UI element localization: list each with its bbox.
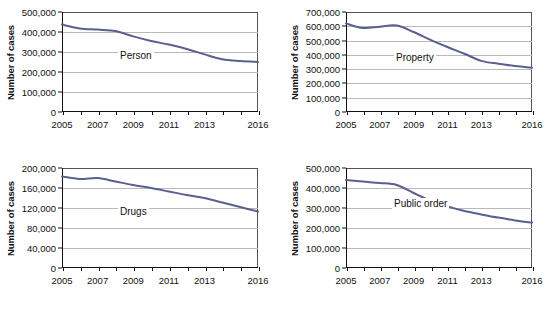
chart-panel-public-order: Number of cases0100,000200,000300,000400… <box>274 156 548 312</box>
series-label-property: Property <box>394 52 436 63</box>
chart-panel-property: Number of cases0100,000200,000300,000400… <box>274 0 548 156</box>
series-label-drugs: Drugs <box>118 206 149 217</box>
series-label-person: Person <box>118 50 154 61</box>
chart-panel-drugs: Number of cases040,00080,000120,000160,0… <box>0 156 274 312</box>
chart-grid: Number of cases0100,000200,000300,000400… <box>0 0 548 312</box>
data-series-line <box>274 156 548 312</box>
series-label-public-order: Public order <box>392 198 449 209</box>
chart-panel-person: Number of cases0100,000200,000300,000400… <box>0 0 274 156</box>
data-series-line <box>274 0 548 156</box>
data-series-line <box>0 0 274 156</box>
data-series-line <box>0 156 274 312</box>
